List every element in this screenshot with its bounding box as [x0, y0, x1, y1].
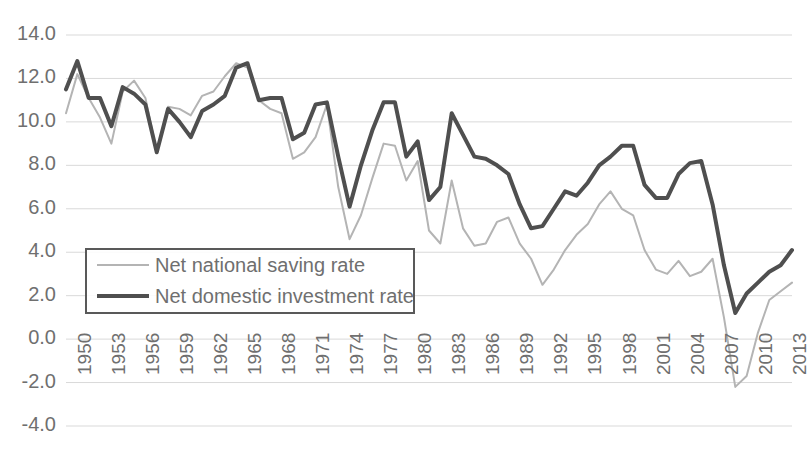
y-axis-tick-label: 12.0	[17, 65, 56, 88]
x-axis-tick-label: 1965	[244, 332, 266, 374]
legend-item[interactable]: Net domestic investment rate	[87, 281, 413, 312]
x-axis-tick-label: 1974	[346, 332, 368, 374]
legend-item[interactable]: Net national saving rate	[87, 250, 413, 281]
y-axis-tick-label: 10.0	[17, 109, 56, 132]
y-axis-tick-label: -2.0	[22, 370, 56, 393]
y-axis-tick-label: 4.0	[28, 239, 56, 262]
y-axis-tick-label: 6.0	[28, 196, 56, 219]
x-axis-tick-label: 2013	[789, 332, 811, 374]
x-axis-tick-label: 1950	[74, 332, 96, 374]
x-axis-tick-label: 1971	[312, 332, 334, 374]
legend-line-swatch-icon	[97, 294, 149, 298]
legend-item-label: Net national saving rate	[155, 254, 365, 277]
x-axis-tick-label: 1998	[619, 332, 641, 374]
y-axis-tick-label: 2.0	[28, 283, 56, 306]
legend-line-swatch-icon	[97, 264, 149, 266]
y-axis-tick-label: 0.0	[28, 326, 56, 349]
x-axis-tick-label: 1983	[448, 332, 470, 374]
y-axis-tick-label: -4.0	[22, 413, 56, 436]
x-axis-tick-label: 1962	[210, 332, 232, 374]
x-axis-tick-label: 1992	[550, 332, 572, 374]
x-axis-tick-label: 1980	[414, 332, 436, 374]
x-axis-tick-label: 1959	[176, 332, 198, 374]
chart-plot-svg	[0, 0, 812, 473]
legend-item-label: Net domestic investment rate	[155, 285, 414, 308]
x-axis-tick-label: 1977	[380, 332, 402, 374]
x-axis-tick-label: 1995	[584, 332, 606, 374]
x-axis-tick-label: 1968	[278, 332, 300, 374]
y-axis-tick-label: 14.0	[17, 22, 56, 45]
x-axis-tick-label: 1986	[482, 332, 504, 374]
x-axis-tick-label: 2007	[721, 332, 743, 374]
x-axis-tick-label: 1953	[108, 332, 130, 374]
y-axis-tick-label: 8.0	[28, 152, 56, 175]
x-axis-tick-label: 2001	[653, 332, 675, 374]
chart-legend: Net national saving rateNet domestic inv…	[85, 248, 415, 314]
chart-container: 14.012.010.08.06.04.02.00.0-2.0-4.0 1950…	[0, 0, 812, 473]
x-axis-tick-label: 2004	[687, 332, 709, 374]
x-axis-tick-label: 1989	[516, 332, 538, 374]
x-axis-tick-label: 1956	[142, 332, 164, 374]
x-axis-tick-label: 2010	[755, 332, 777, 374]
